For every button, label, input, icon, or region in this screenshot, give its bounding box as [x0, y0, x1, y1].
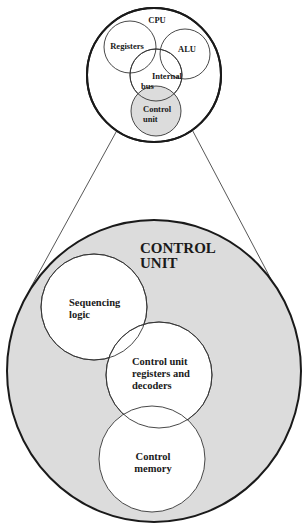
registers-label: Registers	[110, 41, 144, 51]
control-unit-small-label-1: Control	[143, 104, 172, 114]
cu-registers-label-2: registers and	[132, 368, 190, 379]
sequencing-logic-label-2: logic	[69, 309, 90, 320]
internal-bus-label-2: bus	[141, 81, 154, 91]
cpu-control-unit-diagram: CPU Registers ALU Internal bus Control u…	[0, 0, 306, 531]
cu-registers-label-1: Control unit	[132, 356, 188, 367]
cu-registers-label-3: decoders	[132, 380, 172, 391]
control-memory-label-1: Control	[136, 451, 171, 462]
sequencing-logic-label-1: Sequencing	[69, 297, 121, 308]
alu-label: ALU	[178, 44, 196, 54]
control-unit-title-2: UNIT	[140, 255, 178, 271]
control-unit-small-label-2: unit	[143, 114, 158, 124]
control-memory-label-2: memory	[134, 463, 172, 474]
control-unit-title-1: CONTROL	[140, 240, 216, 256]
internal-bus-label-1: Internal	[152, 71, 182, 81]
cpu-title: CPU	[148, 15, 165, 25]
cpu-group: CPU Registers ALU Internal bus Control u…	[87, 8, 221, 142]
control-unit-group: CONTROL UNIT Sequencing logic Control un…	[7, 220, 301, 522]
